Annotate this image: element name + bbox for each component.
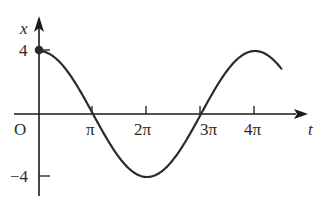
x-axis-label: x	[19, 19, 28, 38]
origin-label: O	[14, 120, 26, 139]
t-tick-label-2pi: 2π	[134, 120, 152, 139]
t-tick-label-4pi: 4π	[244, 120, 262, 139]
start-point-marker	[35, 46, 44, 55]
chart-canvas: x 4 −4 O π 2π 3π 4π t	[0, 0, 323, 202]
t-axis-arrow-icon	[294, 109, 308, 119]
t-tick-label-3pi: 3π	[200, 120, 218, 139]
y-tick-label-neg4: −4	[10, 167, 29, 186]
t-axis-label: t	[308, 120, 314, 139]
t-tick-label-pi: π	[86, 120, 95, 139]
y-tick-label-4: 4	[19, 41, 28, 60]
